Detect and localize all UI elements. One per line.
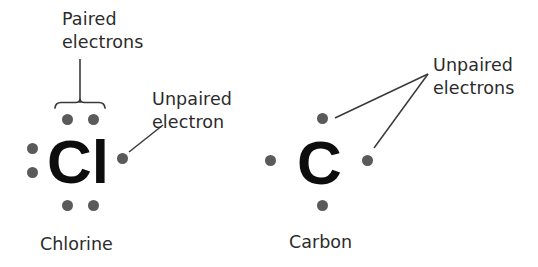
carbon-electron-dot-bottom	[317, 200, 328, 211]
chlorine-electron-dot-left-upper	[27, 143, 38, 154]
unpaired-electrons-label-line2: electrons	[433, 77, 515, 100]
paired-electrons-label-line2: electrons	[62, 31, 144, 54]
chlorine-electron-dot-top-left	[62, 114, 73, 125]
paired-electrons-label: Paired electrons	[62, 8, 144, 54]
carbon-electron-dot-right	[362, 155, 373, 166]
chlorine-atom-name: Chlorine	[40, 234, 113, 255]
lewis-structure-diagram: Paired electrons Unpaired electron Unpai…	[0, 0, 538, 267]
unpaired-electron-label-line2: electron	[152, 111, 232, 134]
carbon-electron-dot-left	[265, 155, 276, 166]
unpaired-electrons-label-line1: Unpaired	[433, 54, 515, 77]
chlorine-electron-dot-bottom-left	[62, 200, 73, 211]
unpaired-electron-label-line1: Unpaired	[152, 88, 232, 111]
paired-electrons-label-line1: Paired	[62, 8, 144, 31]
chlorine-atom-symbol: Cl	[47, 131, 109, 193]
carbon-atom-name: Carbon	[289, 232, 352, 253]
carbon-electron-dot-top	[317, 113, 328, 124]
chlorine-electron-dot-right-unpaired	[117, 153, 128, 164]
unpaired-electrons-leader-line-right	[374, 74, 428, 148]
chlorine-electron-dot-bottom-right	[88, 200, 99, 211]
paired-electrons-brace-icon	[55, 99, 105, 108]
unpaired-electrons-leader-line-top	[335, 74, 428, 118]
chlorine-electron-dot-top-right	[88, 114, 99, 125]
carbon-atom-symbol: C	[297, 132, 342, 194]
chlorine-electron-dot-left-lower	[27, 167, 38, 178]
unpaired-electron-label: Unpaired electron	[152, 88, 232, 134]
unpaired-electrons-label: Unpaired electrons	[433, 54, 515, 100]
